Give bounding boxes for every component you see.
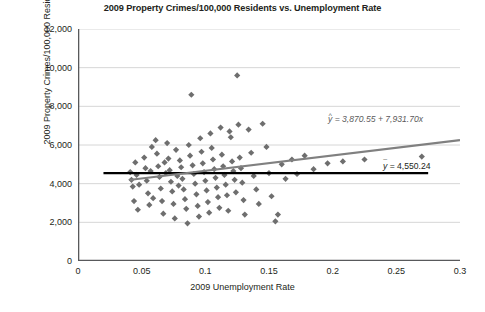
data-point xyxy=(216,205,222,211)
data-point xyxy=(419,154,425,160)
data-point xyxy=(161,159,167,165)
data-point xyxy=(240,197,246,203)
data-point xyxy=(229,158,235,164)
data-point xyxy=(206,210,212,216)
hat-accent: ^ xyxy=(328,112,332,119)
data-point xyxy=(260,121,266,127)
data-point xyxy=(196,213,202,219)
data-point xyxy=(200,160,206,166)
bar-accent: ¯ xyxy=(383,159,387,166)
regression-equation-text: = 3,870.55 + 7,931.70x xyxy=(332,114,423,124)
data-point xyxy=(248,150,254,156)
data-point xyxy=(165,155,171,161)
data-point xyxy=(169,188,175,194)
data-point xyxy=(324,160,330,166)
page-title: 2009 Property Crimes/100,000 Residents v… xyxy=(0,3,485,13)
x-axis-tick-label: 0.3 xyxy=(440,266,480,276)
data-point xyxy=(186,142,192,148)
data-point xyxy=(192,181,198,187)
data-point xyxy=(228,134,234,140)
data-point xyxy=(193,191,199,197)
data-point xyxy=(224,192,230,198)
data-point xyxy=(272,218,278,224)
data-point xyxy=(214,184,220,190)
data-point xyxy=(187,153,193,159)
data-point xyxy=(239,180,245,186)
data-point xyxy=(178,164,184,170)
data-point xyxy=(158,185,164,191)
data-point xyxy=(198,149,204,155)
y-axis-tick-label: 2,000 xyxy=(26,217,72,227)
data-point xyxy=(136,182,142,188)
data-point xyxy=(160,211,166,217)
mean-equation-rest: = 4,550.24 xyxy=(387,161,430,171)
data-point xyxy=(209,145,215,151)
data-point xyxy=(232,177,238,183)
plot-area xyxy=(78,29,460,261)
y-axis-tick-label: 4,000 xyxy=(26,179,72,189)
x-axis-tick-label: 0 xyxy=(58,266,98,276)
data-point xyxy=(205,199,211,205)
data-point xyxy=(181,186,187,192)
data-point xyxy=(188,92,194,98)
y-hat-symbol: y^ xyxy=(328,114,332,124)
data-point xyxy=(172,215,178,221)
data-point xyxy=(268,193,274,199)
data-point xyxy=(183,206,189,212)
data-point xyxy=(233,189,239,195)
data-point xyxy=(361,156,367,162)
y-axis-tick-label: 10,000 xyxy=(26,63,72,73)
data-point xyxy=(153,137,159,143)
data-point xyxy=(195,203,201,209)
y-axis-tick-label: 0 xyxy=(26,256,72,266)
x-axis-tick-label: 0.05 xyxy=(122,266,162,276)
data-point xyxy=(141,154,147,160)
y-bar-symbol: y¯ xyxy=(383,161,387,171)
data-point xyxy=(207,130,213,136)
data-point xyxy=(246,126,252,132)
data-point xyxy=(234,72,240,78)
data-point xyxy=(275,212,281,218)
data-point xyxy=(210,156,216,162)
data-point xyxy=(150,195,156,201)
data-point xyxy=(132,159,138,165)
data-point xyxy=(145,190,151,196)
y-axis-tick-label: 8,000 xyxy=(26,101,72,111)
data-point xyxy=(159,198,165,204)
data-point xyxy=(310,166,316,172)
data-point xyxy=(215,194,221,200)
mean-equation-text: y¯ = 4,550.24 xyxy=(383,161,431,171)
data-point xyxy=(219,152,225,158)
data-point xyxy=(223,182,229,188)
data-point xyxy=(226,128,232,134)
x-axis-title: 2009 Unemployment Rate xyxy=(0,282,485,292)
scatter-plot-svg xyxy=(78,29,460,261)
data-point xyxy=(179,176,185,182)
mean-line-label: y¯ = 4,550.24 xyxy=(383,161,431,171)
data-point xyxy=(282,176,288,182)
data-point xyxy=(182,196,188,202)
chart-screenshot: 2009 Property Crimes/100,000 Residents v… xyxy=(0,0,485,312)
data-point xyxy=(218,125,224,131)
x-axis-tick-label: 0.15 xyxy=(249,266,289,276)
data-point xyxy=(204,187,210,193)
data-point xyxy=(190,162,196,168)
data-point xyxy=(170,201,176,207)
regression-equation-label: y^ = 3,870.55 + 7,931.70x xyxy=(328,114,423,124)
data-point xyxy=(184,220,190,226)
data-point xyxy=(135,207,141,213)
data-point xyxy=(212,175,218,181)
data-point xyxy=(146,202,152,208)
data-point xyxy=(177,157,183,163)
data-point xyxy=(173,147,179,153)
data-point xyxy=(340,158,346,164)
data-point xyxy=(256,201,262,207)
data-point xyxy=(197,135,203,141)
y-axis-tick-label: 12,000 xyxy=(26,24,72,34)
data-point xyxy=(225,208,231,214)
data-point xyxy=(131,198,137,204)
x-axis-tick-label: 0.2 xyxy=(313,266,353,276)
x-axis-tick-label: 0.25 xyxy=(376,266,416,276)
y-axis-tick-label: 6,000 xyxy=(26,140,72,150)
data-point xyxy=(235,122,241,128)
